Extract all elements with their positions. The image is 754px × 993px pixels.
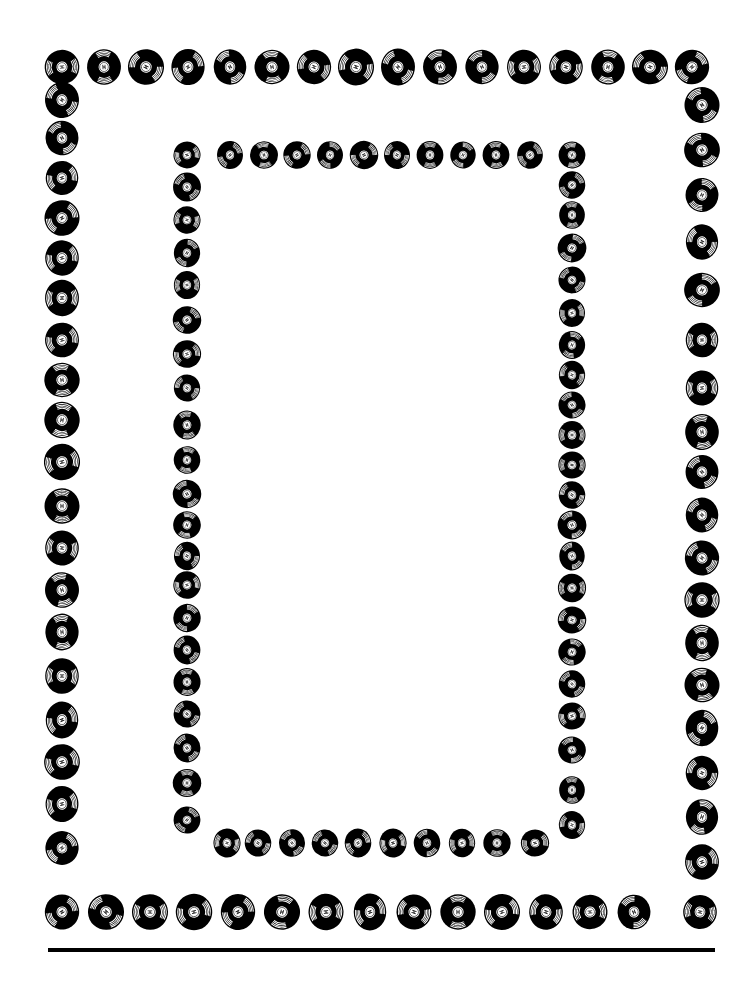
vinyl-record-icon [463, 48, 501, 86]
vinyl-record-icon [683, 539, 721, 577]
outer-frame-right-record [683, 496, 721, 534]
inner-frame-top-record [315, 140, 345, 170]
vinyl-record-icon [683, 843, 721, 881]
outer-frame-right-record [683, 176, 721, 214]
vinyl-record-icon [43, 829, 81, 867]
vinyl-record-icon [43, 487, 81, 525]
outer-frame-left-record [43, 199, 81, 237]
inner-frame-right-record [557, 360, 587, 390]
inner-frame-left-record [172, 805, 202, 835]
outer-frame-left-record [43, 361, 81, 399]
vinyl-record-icon [557, 605, 587, 635]
inner-frame-right-record [557, 541, 587, 571]
outer-frame-bottom-record [681, 893, 719, 931]
outer-frame-left-record [43, 785, 81, 823]
outer-frame-bottom-record [615, 893, 653, 931]
vinyl-record-icon [172, 305, 202, 335]
outer-frame-bottom-record [131, 893, 169, 931]
outer-frame-top-record [211, 48, 249, 86]
outer-frame-left-record [43, 613, 81, 651]
vinyl-record-icon [253, 48, 291, 86]
vinyl-record-icon [412, 828, 442, 858]
vinyl-record-icon [683, 369, 721, 407]
vinyl-record-icon [87, 893, 125, 931]
vinyl-record-icon [43, 529, 81, 567]
vinyl-record-icon [683, 496, 721, 534]
vinyl-record-icon [683, 624, 721, 662]
outer-frame-left-record [43, 701, 81, 739]
inner-frame-top-record [415, 140, 445, 170]
vinyl-record-icon [547, 48, 585, 86]
vinyl-record-icon [295, 48, 333, 86]
outer-frame-top-record [589, 48, 627, 86]
outer-frame-left-record [43, 159, 81, 197]
vinyl-record-icon [263, 893, 301, 931]
outer-frame-left-record [43, 321, 81, 359]
vinyl-record-icon [212, 828, 242, 858]
inner-frame-left-record [172, 603, 202, 633]
outer-frame-left-record [43, 279, 81, 317]
inner-frame-left-record [172, 373, 202, 403]
vinyl-record-icon [172, 270, 202, 300]
vinyl-record-icon [172, 510, 202, 540]
vinyl-record-icon [557, 701, 587, 731]
outer-frame-top-record [295, 48, 333, 86]
vinyl-record-icon [85, 48, 123, 86]
outer-frame-right-record [683, 709, 721, 747]
vinyl-record-icon [349, 140, 379, 170]
outer-frame-right-record [683, 271, 721, 309]
vinyl-record-icon [557, 140, 587, 170]
outer-frame-right-record [683, 223, 721, 261]
vinyl-record-icon [172, 635, 202, 665]
inner-frame-right-record [557, 298, 587, 328]
vinyl-record-icon [683, 754, 721, 792]
inner-frame-right-record [557, 810, 587, 840]
inner-frame-left-record [172, 541, 202, 571]
outer-frame-bottom-record [175, 893, 213, 931]
outer-frame-right-record [683, 86, 721, 124]
vinyl-record-icon [447, 828, 477, 858]
inner-frame-right-record [557, 775, 587, 805]
vinyl-record-icon [172, 140, 202, 170]
vinyl-record-icon [681, 893, 719, 931]
inner-frame-top-record [515, 140, 545, 170]
vinyl-record-icon [172, 805, 202, 835]
inner-frame-top-record [349, 140, 379, 170]
outer-frame-top-record [547, 48, 585, 86]
vinyl-record-icon [439, 893, 477, 931]
vinyl-record-icon [520, 828, 550, 858]
vinyl-record-icon [683, 271, 721, 309]
vinyl-record-icon [683, 453, 721, 491]
vinyl-record-icon [505, 48, 543, 86]
outer-frame-left-record [43, 239, 81, 277]
inner-frame-left-record [172, 768, 202, 798]
inner-frame-right-record [557, 605, 587, 635]
vinyl-record-icon [683, 581, 721, 619]
vinyl-record-icon [282, 140, 312, 170]
outer-frame-bottom-record [307, 893, 345, 931]
vinyl-record-icon [557, 669, 587, 699]
vinyl-record-icon [215, 140, 245, 170]
vinyl-record-icon [43, 893, 81, 931]
vinyl-record-icon [557, 170, 587, 200]
vinyl-record-icon [683, 131, 721, 169]
vinyl-record-icon [683, 709, 721, 747]
outer-frame-right-record [683, 413, 721, 451]
vinyl-record-icon [43, 119, 81, 157]
outer-frame-top-record [127, 48, 165, 86]
inner-frame-right-record [557, 265, 587, 295]
vinyl-record-icon [683, 176, 721, 214]
inner-frame-right-record [557, 637, 587, 667]
inner-frame-left-record [172, 667, 202, 697]
vinyl-record-icon [43, 613, 81, 651]
vinyl-record-icon [557, 775, 587, 805]
vinyl-record-icon [683, 413, 721, 451]
inner-frame-bottom-record [310, 828, 340, 858]
inner-frame-bottom-record [343, 828, 373, 858]
vinyl-record-icon [172, 238, 202, 268]
vinyl-record-icon [571, 893, 609, 931]
inner-frame-right-record [557, 233, 587, 263]
vinyl-record-icon [482, 828, 512, 858]
inner-frame-top-record [448, 140, 478, 170]
inner-frame-bottom-record [243, 828, 273, 858]
